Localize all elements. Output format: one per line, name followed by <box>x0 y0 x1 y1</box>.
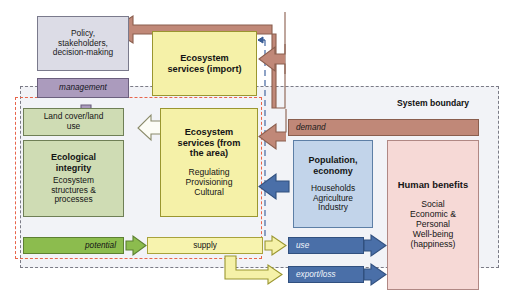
demand-into-es-arrowhead <box>259 109 286 149</box>
box-population-economy[interactable]: Population, economy Households Agricultu… <box>293 140 373 228</box>
box-ecosystem-services-import[interactable]: Ecosystem services (import) <box>152 31 257 96</box>
es-import-title-1: Ecosystem <box>180 53 229 64</box>
demand-into-import-arrowhead <box>259 44 285 74</box>
policy-line-3: decision-making <box>53 48 114 58</box>
flow-export-loss[interactable]: export/loss <box>288 266 364 283</box>
box-land-cover[interactable]: Land cover/land use <box>23 108 124 136</box>
supply-label: supply <box>193 241 217 250</box>
export-to-benefits-arrow <box>364 264 386 285</box>
diagram-canvas: System boundary <box>0 0 515 303</box>
eco-integrity-sub-3: processes <box>54 195 92 205</box>
es-to-landcover-arrow <box>138 115 161 140</box>
box-policy[interactable]: Policy, stakeholders, decision-making <box>37 16 129 71</box>
use-label: use <box>296 241 309 250</box>
use-to-benefits-arrow <box>364 235 386 256</box>
population-demand-arrow <box>259 174 289 199</box>
box-ecological-integrity[interactable]: Ecological integrity Ecosystem structure… <box>23 140 124 217</box>
potential-label: potential <box>85 241 116 250</box>
es-area-sub-3: Cultural <box>194 188 224 198</box>
export-loss-label: export/loss <box>296 270 336 279</box>
es-area-title-3: the area) <box>190 148 228 159</box>
potential-to-supply-arrow <box>126 236 146 255</box>
flow-supply[interactable]: supply <box>147 237 263 254</box>
human-benefits-title: Human benefits <box>398 180 468 191</box>
demand-label: demand <box>296 123 326 132</box>
supply-to-export-arrow <box>225 256 282 284</box>
box-ecosystem-services-area[interactable]: Ecosystem services (from the area) Regul… <box>160 108 258 217</box>
eco-integrity-title-2: integrity <box>56 163 92 173</box>
box-human-benefits[interactable]: Human benefits Social Economic & Persona… <box>387 140 479 290</box>
es-area-title-2: services (from <box>178 138 241 149</box>
es-import-title-2: services (import) <box>167 64 241 75</box>
supply-to-use-arrow <box>265 236 286 255</box>
population-sub-3: Industry <box>318 203 348 213</box>
population-title-2: economy <box>313 166 353 176</box>
flow-demand[interactable]: demand <box>288 119 479 136</box>
management-label: management <box>59 83 107 92</box>
population-title-1: Population, <box>309 155 358 165</box>
flow-use[interactable]: use <box>288 237 364 254</box>
human-benefits-sub-5: (happiness) <box>411 240 456 250</box>
land-cover-line-2: use <box>67 122 81 132</box>
box-management[interactable]: management <box>37 78 129 98</box>
eco-integrity-title-1: Ecological <box>51 152 96 162</box>
flow-potential[interactable]: potential <box>23 237 124 254</box>
es-area-title-1: Ecosystem <box>185 127 234 138</box>
